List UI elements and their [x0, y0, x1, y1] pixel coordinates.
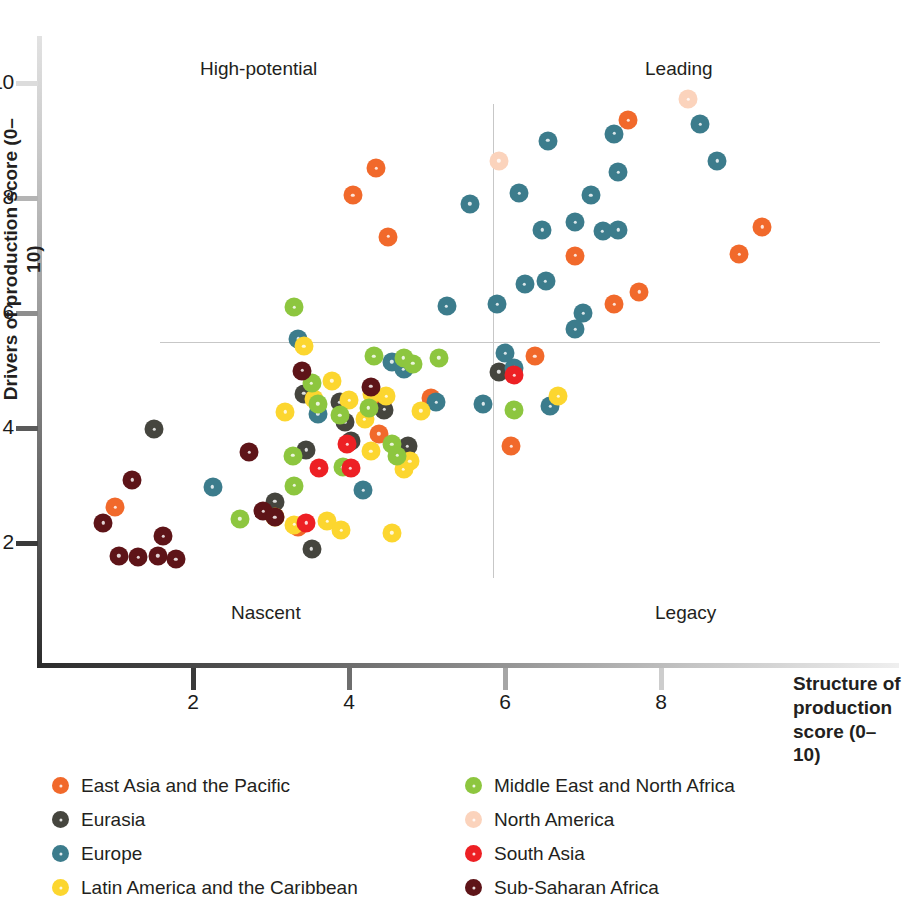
- x-tick-label-2: 2: [173, 690, 213, 714]
- scatter-point: [605, 295, 624, 314]
- x-tick-label-8: 8: [641, 690, 681, 714]
- scatter-point: [566, 320, 585, 339]
- scatter-point: [332, 521, 351, 540]
- y-tick-mark-10: [16, 81, 38, 86]
- scatter-point: [338, 435, 357, 454]
- scatter-point: [297, 513, 316, 532]
- scatter-point: [361, 442, 380, 461]
- scatter-point: [203, 477, 222, 496]
- legend-item-latin-america-caribbean[interactable]: Latin America and the Caribbean: [52, 872, 358, 903]
- legend-label-middle-east-north-africa: Middle East and North Africa: [494, 775, 735, 797]
- scatter-point: [730, 245, 749, 264]
- scatter-point: [753, 217, 772, 236]
- scatter-point: [276, 402, 295, 421]
- scatter-point: [388, 446, 407, 465]
- legend-swatch-icon-eurasia: [52, 811, 69, 828]
- x-tick-label-4: 4: [329, 690, 369, 714]
- scatter-point: [359, 398, 378, 417]
- y-axis-title-text: Drivers of production score (0–10): [0, 118, 44, 400]
- quadrant-label-leading: Leading: [645, 58, 713, 80]
- scatter-point: [581, 186, 600, 205]
- scatter-point: [538, 131, 557, 150]
- scatter-point: [379, 227, 398, 246]
- scatter-point: [460, 194, 479, 213]
- scatter-point: [265, 508, 284, 527]
- x-tick-mark-8: [659, 668, 664, 690]
- legend-swatch-icon-south-asia: [465, 845, 482, 862]
- scatter-point: [609, 220, 628, 239]
- scatter-point: [691, 115, 710, 134]
- scatter-point: [129, 548, 148, 567]
- legend-column-left: East Asia and the PacificEurasiaEuropeLa…: [52, 770, 358, 906]
- y-tick-mark-4: [16, 426, 38, 431]
- scatter-point: [294, 337, 313, 356]
- y-axis-title: Drivers of production score (0–10): [0, 109, 45, 409]
- legend-item-south-asia[interactable]: South Asia: [465, 838, 735, 869]
- legend-label-eurasia: Eurasia: [81, 809, 145, 831]
- x-tick-mark-4: [347, 668, 352, 690]
- scatter-point: [474, 394, 493, 413]
- quadrant-label-nascent: Nascent: [231, 602, 301, 624]
- scatter-point: [605, 124, 624, 143]
- scatter-point: [310, 459, 329, 478]
- scatter-point: [566, 213, 585, 232]
- scatter-point: [533, 220, 552, 239]
- scatter-point: [609, 163, 628, 182]
- scatter-point: [489, 151, 508, 170]
- legend-item-europe[interactable]: Europe: [52, 838, 358, 869]
- scatter-point: [123, 470, 142, 489]
- scatter-point: [382, 523, 401, 542]
- scatter-point: [679, 90, 698, 109]
- scatter-point: [145, 420, 164, 439]
- legend-label-east-asia-pacific: East Asia and the Pacific: [81, 775, 290, 797]
- quadrant-label-legacy: Legacy: [655, 602, 716, 624]
- scatter-point: [240, 443, 259, 462]
- scatter-point: [549, 387, 568, 406]
- scatter-point: [285, 476, 304, 495]
- scatter-point: [525, 347, 544, 366]
- legend-label-south-asia: South Asia: [494, 843, 585, 865]
- legend-item-east-asia-pacific[interactable]: East Asia and the Pacific: [52, 770, 358, 801]
- legend-swatch-icon-north-america: [465, 811, 482, 828]
- scatter-point: [630, 282, 649, 301]
- y-tick-label-4: 4: [0, 415, 14, 439]
- scatter-point: [94, 513, 113, 532]
- legend-swatch-icon-latin-america-caribbean: [52, 879, 69, 896]
- legend-swatch-icon-sub-saharan-africa: [465, 879, 482, 896]
- legend-item-eurasia[interactable]: Eurasia: [52, 804, 358, 835]
- scatter-point: [308, 394, 327, 413]
- legend-swatch-icon-europe: [52, 845, 69, 862]
- scatter-point: [361, 377, 380, 396]
- x-axis-title-line-3: score (0–10): [793, 720, 903, 768]
- scatter-point: [505, 366, 524, 385]
- legend-column-right: Middle East and North AfricaNorth Americ…: [465, 770, 735, 906]
- legend-label-europe: Europe: [81, 843, 142, 865]
- x-tick-mark-2: [191, 668, 196, 690]
- scatter-point: [403, 354, 422, 373]
- legend-label-sub-saharan-africa: Sub-Saharan Africa: [494, 877, 659, 899]
- chart-root: 1086422468 High-potential Leading Nascen…: [0, 0, 903, 908]
- scatter-point: [488, 295, 507, 314]
- y-tick-label-10: 10: [0, 70, 14, 94]
- legend: East Asia and the PacificEurasiaEuropeLa…: [52, 770, 882, 900]
- scatter-point: [341, 459, 360, 478]
- y-tick-mark-2: [16, 541, 38, 546]
- scatter-point: [230, 509, 249, 528]
- scatter-point: [283, 446, 302, 465]
- quadrant-label-high-potential: High-potential: [200, 58, 317, 80]
- x-tick-mark-6: [503, 668, 508, 690]
- scatter-point: [496, 344, 515, 363]
- x-axis-title: Structure of production score (0–10): [793, 672, 903, 767]
- legend-item-north-america[interactable]: North America: [465, 804, 735, 835]
- scatter-point: [510, 184, 529, 203]
- legend-item-middle-east-north-africa[interactable]: Middle East and North Africa: [465, 770, 735, 801]
- legend-item-sub-saharan-africa[interactable]: Sub-Saharan Africa: [465, 872, 735, 903]
- scatter-point: [302, 539, 321, 558]
- scatter-point: [502, 437, 521, 456]
- scatter-point: [411, 401, 430, 420]
- scatter-point: [148, 546, 167, 565]
- scatter-point: [515, 275, 534, 294]
- scatter-point: [566, 246, 585, 265]
- legend-swatch-icon-middle-east-north-africa: [465, 777, 482, 794]
- y-tick-label-2: 2: [0, 530, 14, 554]
